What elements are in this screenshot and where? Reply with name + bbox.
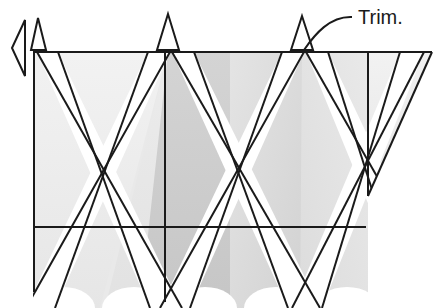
arrow-head-icon	[12, 20, 25, 76]
trim-notch-2[interactable]	[157, 14, 179, 50]
left-arrow-marker	[12, 20, 25, 76]
trim-label: Trim.	[358, 6, 403, 28]
figure-container: Trim.	[0, 0, 444, 308]
annotation-group: Trim.	[304, 6, 403, 50]
trim-notch-3[interactable]	[291, 16, 313, 50]
trim-diagram-svg: Trim.	[0, 0, 444, 308]
trim-notch-1[interactable]	[31, 18, 46, 50]
trim-notch-group	[31, 14, 313, 50]
